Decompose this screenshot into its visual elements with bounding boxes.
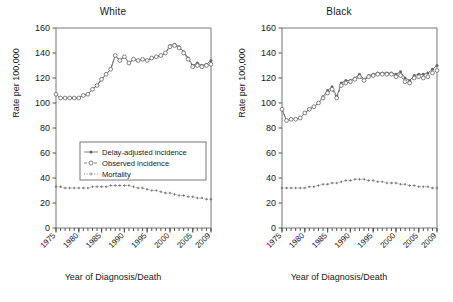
svg-text:160: 160: [261, 23, 276, 33]
svg-text:140: 140: [261, 48, 276, 58]
svg-text:1985: 1985: [310, 231, 329, 250]
svg-text:20: 20: [40, 198, 50, 208]
svg-text:1975: 1975: [38, 231, 57, 250]
svg-text:1995: 1995: [130, 231, 149, 250]
svg-text:2000: 2000: [378, 231, 397, 250]
legend-label: Delay-adjusted incidence: [102, 148, 187, 157]
panel-white-plot: 0204060801001201401601975198019851990199…: [0, 0, 226, 302]
svg-text:1990: 1990: [333, 231, 352, 250]
svg-text:40: 40: [40, 173, 50, 183]
panel-black-series: [280, 64, 439, 189]
svg-text:120: 120: [35, 73, 50, 83]
svg-text:2000: 2000: [152, 231, 171, 250]
svg-text:2005: 2005: [401, 231, 420, 250]
svg-text:1990: 1990: [107, 231, 126, 250]
panel-white-legend: Delay-adjusted incidenceObserved inciden…: [80, 142, 206, 180]
svg-text:100: 100: [261, 98, 276, 108]
svg-text:1980: 1980: [61, 231, 80, 250]
svg-text:100: 100: [35, 98, 50, 108]
svg-text:1975: 1975: [264, 231, 283, 250]
svg-text:1980: 1980: [287, 231, 306, 250]
svg-text:20: 20: [266, 198, 276, 208]
svg-text:120: 120: [261, 73, 276, 83]
panel-white: White Rate per 100,000 Year of Diagnosis…: [0, 0, 226, 302]
svg-text:2009: 2009: [419, 231, 438, 250]
svg-text:1985: 1985: [84, 231, 103, 250]
legend-label: Observed incidence: [102, 159, 169, 168]
legend-label: Mortality: [102, 170, 131, 179]
svg-text:80: 80: [40, 123, 50, 133]
svg-text:60: 60: [266, 148, 276, 158]
figure-two-panel-incidence-mortality: White Rate per 100,000 Year of Diagnosis…: [0, 0, 453, 302]
svg-text:60: 60: [40, 148, 50, 158]
panel-black: Black Rate per 100,000 Year of Diagnosis…: [226, 0, 452, 302]
svg-text:140: 140: [35, 48, 50, 58]
svg-text:2009: 2009: [193, 231, 212, 250]
svg-text:40: 40: [266, 173, 276, 183]
svg-text:160: 160: [35, 23, 50, 33]
panel-black-axes: 0204060801001201401601975198019851990199…: [261, 23, 439, 250]
svg-text:2005: 2005: [175, 231, 194, 250]
panel-black-plot: 0204060801001201401601975198019851990199…: [226, 0, 452, 302]
svg-text:1995: 1995: [356, 231, 375, 250]
svg-text:80: 80: [266, 123, 276, 133]
